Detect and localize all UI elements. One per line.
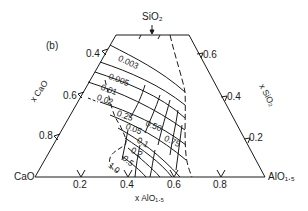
- panel-label: (b): [46, 41, 58, 51]
- bottom-tick-0.2: 0.2: [73, 180, 87, 190]
- bottom-tick-0.6: 0.6: [167, 180, 181, 190]
- right-tick-0.6: 0.6: [203, 50, 217, 60]
- diagram-lines: [0, 0, 308, 211]
- bottom-tick-0.8: 0.8: [213, 180, 227, 190]
- left-tick-0.8: 0.8: [39, 131, 53, 141]
- apex-label-alo15: AlO₁.₅: [268, 172, 295, 182]
- ternary-diagram: (b) SiO₂ CaO AlO₁.₅ x CaO x SiO₂ x AlO₁.…: [0, 0, 308, 211]
- right-tick-0.2: 0.2: [249, 133, 263, 143]
- bottom-tick-0.4: 0.4: [120, 180, 134, 190]
- axis-label-xalo15: x AlO₁.₅: [135, 193, 164, 203]
- left-tick-0.6: 0.6: [63, 91, 77, 101]
- apex-label-sio2: SiO₂: [142, 12, 163, 22]
- right-tick-0.4: 0.4: [227, 92, 241, 102]
- apex-label-cao: CaO: [14, 172, 35, 182]
- left-tick-0.4: 0.4: [86, 49, 100, 59]
